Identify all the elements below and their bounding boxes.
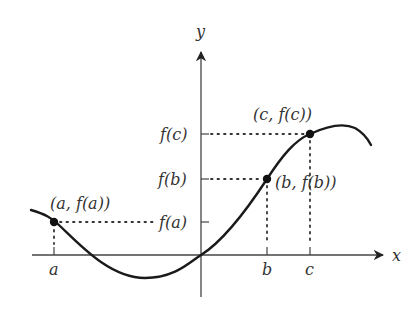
y-axis-label: y [195, 22, 206, 41]
point-a [50, 218, 58, 226]
function-diagram: y x f(c) f(b) f(a) a b c (a, f(a)) (b, f… [0, 0, 419, 317]
x-axis-label: x [392, 246, 401, 265]
point-label-b: (b, f(b)) [275, 173, 337, 192]
point-label-c: (c, f(c)) [253, 105, 312, 124]
y-tick-label-fa: f(a) [158, 213, 187, 232]
x-tick-label-c: c [305, 260, 314, 279]
point-label-a: (a, f(a)) [50, 194, 110, 213]
x-tick-label-a: a [49, 260, 59, 279]
x-tick-label-b: b [262, 260, 272, 279]
y-tick-label-fc: f(c) [159, 125, 187, 144]
point-c [306, 130, 314, 138]
y-tick-label-fb: f(b) [157, 170, 187, 189]
point-b [263, 175, 271, 183]
